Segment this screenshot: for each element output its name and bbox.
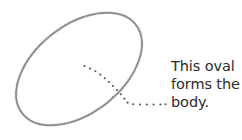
annotation-label: This oval forms the body. bbox=[171, 58, 242, 111]
figure-canvas: This oval forms the body. bbox=[0, 0, 242, 140]
oval-shape bbox=[0, 0, 163, 140]
